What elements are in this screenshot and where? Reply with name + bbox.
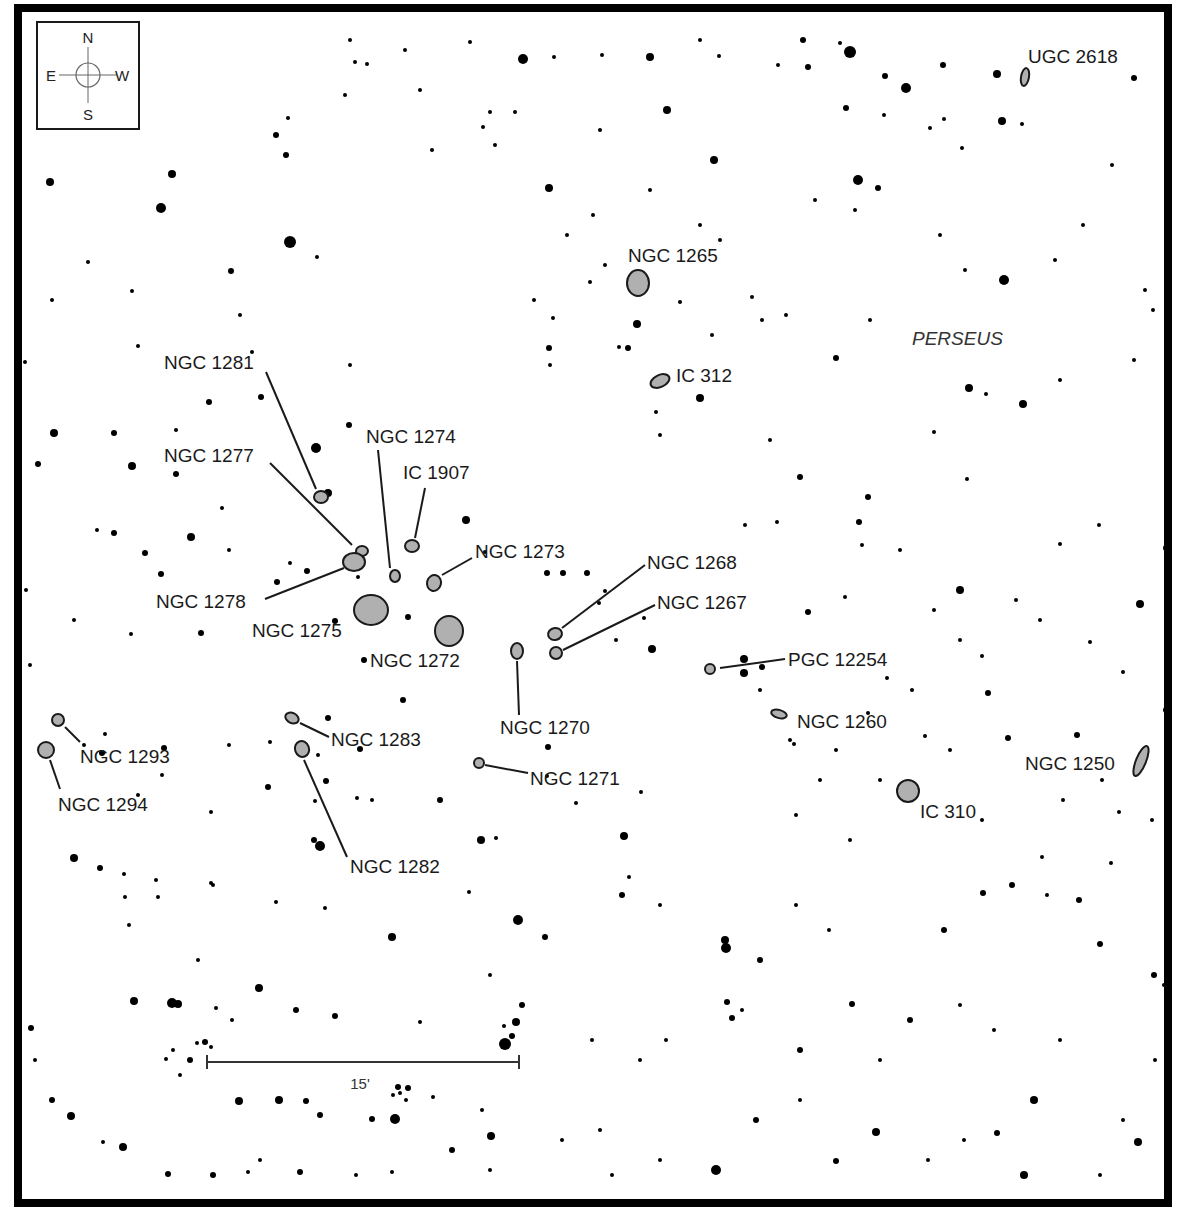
star-icon (620, 832, 628, 840)
star-icon (462, 516, 470, 524)
star-icon (898, 548, 902, 552)
star-icon (805, 609, 811, 615)
star-icon (494, 836, 498, 840)
star-icon (1061, 798, 1065, 802)
star-icon (1163, 545, 1169, 551)
star-icon (348, 363, 352, 367)
star-icon (818, 778, 822, 782)
star-icon (227, 548, 231, 552)
galaxy-ngc-1267-icon (550, 647, 562, 659)
star-icon (395, 1084, 401, 1090)
star-icon (499, 1038, 511, 1050)
star-icon (1151, 308, 1155, 312)
star-icon (619, 892, 625, 898)
star-icon (361, 657, 367, 663)
star-icon (718, 238, 722, 242)
star-icon (1009, 882, 1015, 888)
star-icon (1121, 1118, 1125, 1122)
star-icon (403, 48, 407, 52)
star-icon (1153, 1058, 1157, 1062)
label-ngc-1270: NGC 1270 (500, 717, 590, 738)
star-icon (1097, 941, 1103, 947)
compass-west: W (115, 67, 130, 84)
star-icon (284, 236, 296, 248)
label-ic-310: IC 310 (920, 801, 976, 822)
label-ngc-1271: NGC 1271 (530, 768, 620, 789)
star-icon (227, 743, 231, 747)
galaxy-ngc-1274-icon (390, 570, 400, 582)
star-icon (551, 316, 555, 320)
star-icon (431, 1095, 435, 1099)
star-icon (174, 428, 178, 432)
star-icon (797, 474, 803, 480)
star-icon (843, 595, 847, 599)
star-icon (365, 62, 369, 66)
galaxy-pgc-12254-icon (705, 664, 715, 674)
star-icon (1097, 523, 1101, 527)
star-icon (70, 854, 78, 862)
star-icon (160, 773, 164, 777)
star-icon (1058, 1038, 1062, 1042)
star-icon (797, 1047, 803, 1053)
star-icon (317, 1112, 323, 1118)
star-icon (168, 170, 176, 178)
star-icon (210, 1172, 216, 1178)
star-icon (390, 1170, 394, 1174)
galaxy-ngc-1278-icon (343, 553, 365, 571)
star-icon (758, 688, 762, 692)
galaxy-ngc-1270-icon (511, 643, 523, 659)
star-icon (545, 184, 553, 192)
label-ic-1907: IC 1907 (403, 462, 470, 483)
star-icon (165, 1171, 171, 1177)
star-icon (286, 116, 290, 120)
galaxy-ic-1907-icon (405, 540, 419, 552)
star-icon (288, 561, 292, 565)
star-icon (405, 614, 411, 620)
label-ngc-1273: NGC 1273 (475, 541, 565, 562)
star-icon (878, 778, 882, 782)
star-icon (206, 399, 212, 405)
star-icon (958, 1003, 962, 1007)
star-icon (519, 1002, 525, 1008)
star-icon (849, 1001, 855, 1007)
star-icon (400, 697, 406, 703)
star-icon (658, 903, 662, 907)
star-icon (710, 333, 714, 337)
star-icon (994, 1130, 1000, 1136)
star-icon (834, 748, 838, 752)
star-icon (872, 1128, 880, 1136)
star-icon (303, 1098, 309, 1104)
star-icon (449, 1147, 455, 1153)
galaxy-ngc-1271-icon (474, 758, 484, 768)
star-icon (907, 1017, 913, 1023)
star-icon (565, 233, 569, 237)
star-icon (724, 999, 730, 1005)
star-icon (1005, 735, 1011, 741)
star-icon (275, 1096, 283, 1104)
star-icon (1163, 707, 1169, 713)
star-icon (50, 298, 54, 302)
star-icon (493, 143, 497, 147)
star-icon (274, 579, 280, 585)
star-icon (776, 63, 780, 67)
star-icon (33, 1058, 37, 1062)
star-icon (1110, 163, 1114, 167)
star-icon (1136, 600, 1144, 608)
compass-east: E (46, 67, 56, 84)
star-icon (625, 345, 631, 351)
label-ngc-1277: NGC 1277 (164, 445, 254, 466)
star-icon (202, 1039, 208, 1045)
label-ngc-1278: NGC 1278 (156, 591, 246, 612)
star-icon (963, 268, 967, 272)
star-icon (878, 1058, 882, 1062)
star-icon (274, 900, 278, 904)
star-icon (156, 895, 160, 899)
star-icon (209, 1045, 213, 1049)
star-icon (901, 83, 911, 93)
star-icon (173, 471, 179, 477)
star-icon (1121, 670, 1125, 674)
star-icon (513, 915, 523, 925)
star-icon (1058, 542, 1062, 546)
star-icon (588, 280, 592, 284)
star-icon (198, 630, 204, 636)
